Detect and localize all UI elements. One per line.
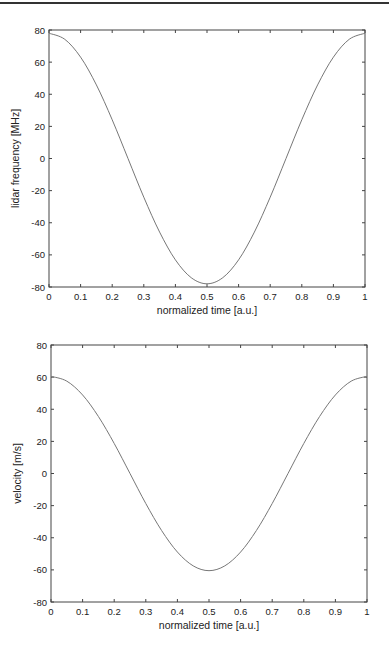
chart-1-xtick-label: 1 xyxy=(362,291,367,302)
chart-2-x-axis-title: normalized time [a.u.] xyxy=(159,619,259,631)
chart-2-xtick-label: 0.2 xyxy=(108,606,121,617)
chart-1-xtick-label: 0.9 xyxy=(327,291,340,302)
chart-1-ytick-label: 20 xyxy=(34,121,45,132)
chart-1-ytick-label: -20 xyxy=(31,185,45,196)
chart-2-ytick-label: -40 xyxy=(33,532,47,543)
chart-2-xtick-label: 0.8 xyxy=(297,606,310,617)
chart-1-ytick-label: -60 xyxy=(31,249,45,260)
chart-2-plot-frame xyxy=(51,345,367,602)
chart-1-xtick-label: 0.8 xyxy=(295,291,308,302)
chart-2-xtick-label: 0.4 xyxy=(171,606,184,617)
chart-2-ytick-label: -20 xyxy=(33,500,47,511)
chart-2-series-line-1 xyxy=(51,376,367,570)
chart-1-xtick-label: 0.4 xyxy=(169,291,182,302)
chart-2-xtick-label: 0 xyxy=(48,606,53,617)
chart-1-xtick-label: 0.3 xyxy=(137,291,150,302)
chart-2-ytick-label: 20 xyxy=(36,436,47,447)
chart-1-ytick-label: -40 xyxy=(31,217,45,228)
chart-2-ytick-label: 0 xyxy=(42,468,47,479)
chart-1-ytick-label: 0 xyxy=(40,153,45,164)
chart-1-xtick-label: 0.6 xyxy=(232,291,245,302)
chart-1-x-axis-title: normalized time [a.u.] xyxy=(157,304,257,316)
chart-2-ytick-label: -60 xyxy=(33,564,47,575)
chart-2-xtick-label: 0.7 xyxy=(266,606,279,617)
chart-1-xtick-label: 0.1 xyxy=(74,291,87,302)
chart-2-xtick-label: 0.1 xyxy=(76,606,89,617)
chart-1-plot-frame xyxy=(49,30,365,287)
chart-2-ytick-label: -80 xyxy=(33,597,47,608)
chart-2-ytick-label: 60 xyxy=(36,372,47,383)
chart-2-y-axis-title: velocity [m/s] xyxy=(11,443,23,504)
chart-1-series-line-1 xyxy=(49,33,365,284)
chart-1-xtick-label: 0 xyxy=(46,291,51,302)
chart-2-xtick-label: 0.3 xyxy=(139,606,152,617)
chart-1-ytick-label: -80 xyxy=(31,282,45,293)
chart-1-y-axis-title: lidar frequency [MHz] xyxy=(9,109,21,208)
chart-1-ytick-label: 80 xyxy=(34,25,45,36)
chart-1-ytick-label: 40 xyxy=(34,89,45,100)
chart-1-ytick-label: 60 xyxy=(34,57,45,68)
chart-1-xtick-label: 0.7 xyxy=(264,291,277,302)
chart-2-ytick-label: 40 xyxy=(36,404,47,415)
chart-2-xtick-label: 0.9 xyxy=(329,606,342,617)
chart-2-xtick-label: 0.5 xyxy=(202,606,215,617)
figure: 00.10.20.30.40.50.60.70.80.91-80-60-40-2… xyxy=(0,0,389,659)
chart-2-ytick-label: 80 xyxy=(36,340,47,351)
chart-1-xtick-label: 0.2 xyxy=(106,291,119,302)
chart-2-xtick-label: 0.6 xyxy=(234,606,247,617)
chart-1-xtick-label: 0.5 xyxy=(200,291,213,302)
chart-2-xtick-label: 1 xyxy=(364,606,369,617)
